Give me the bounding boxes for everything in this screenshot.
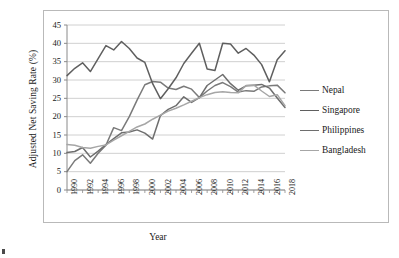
y-tick-label: 5 (39, 167, 61, 176)
x-tick-label: 1998 (132, 179, 141, 195)
x-tick-label: 2008 (210, 179, 219, 195)
y-tick-label: 15 (39, 131, 61, 140)
legend-label: Singapore (322, 105, 360, 115)
y-tick-label: 35 (39, 57, 61, 66)
legend-line-icon (300, 130, 319, 131)
chart-legend: NepalSingaporePhilippinesBangladesh (300, 80, 395, 160)
x-tick-label: 2002 (164, 179, 173, 195)
y-tick-label: 20 (39, 112, 61, 121)
chart-figure: Adjusted Net Saving Rate (%) Year 051015… (0, 0, 399, 258)
x-tick-label: 2010 (226, 179, 235, 195)
y-tick-label: 25 (39, 94, 61, 103)
legend-line-icon (300, 110, 319, 111)
legend-line-icon (300, 150, 319, 151)
legend-label: Nepal (322, 85, 344, 95)
x-tick-label: 1996 (117, 179, 126, 195)
x-tick-label: 2006 (195, 179, 204, 195)
x-tick-label: 1992 (86, 179, 95, 195)
legend-item-bangladesh[interactable]: Bangladesh (300, 140, 395, 160)
x-tick-label: 1990 (70, 179, 79, 195)
y-tick-label: 40 (39, 39, 61, 48)
y-tick-label: 0 (39, 186, 61, 195)
x-tick-label: 2012 (241, 179, 250, 195)
x-tick-label: 2000 (148, 179, 157, 195)
legend-item-nepal[interactable]: Nepal (300, 80, 395, 100)
legend-item-singapore[interactable]: Singapore (300, 100, 395, 120)
x-tick-label: 2016 (273, 179, 282, 195)
page-artifact-mark (2, 249, 5, 254)
x-tick-label: 2018 (288, 179, 297, 195)
y-tick-label: 30 (39, 76, 61, 85)
legend-label: Philippines (322, 125, 364, 135)
legend-label: Bangladesh (322, 145, 366, 155)
x-tick-label: 2004 (179, 179, 188, 195)
x-tick-label: 1994 (101, 179, 110, 195)
legend-item-philippines[interactable]: Philippines (300, 120, 395, 140)
legend-line-icon (300, 90, 319, 91)
y-tick-label: 10 (39, 149, 61, 158)
x-tick-label: 2014 (257, 179, 266, 195)
y-tick-label: 45 (39, 21, 61, 30)
